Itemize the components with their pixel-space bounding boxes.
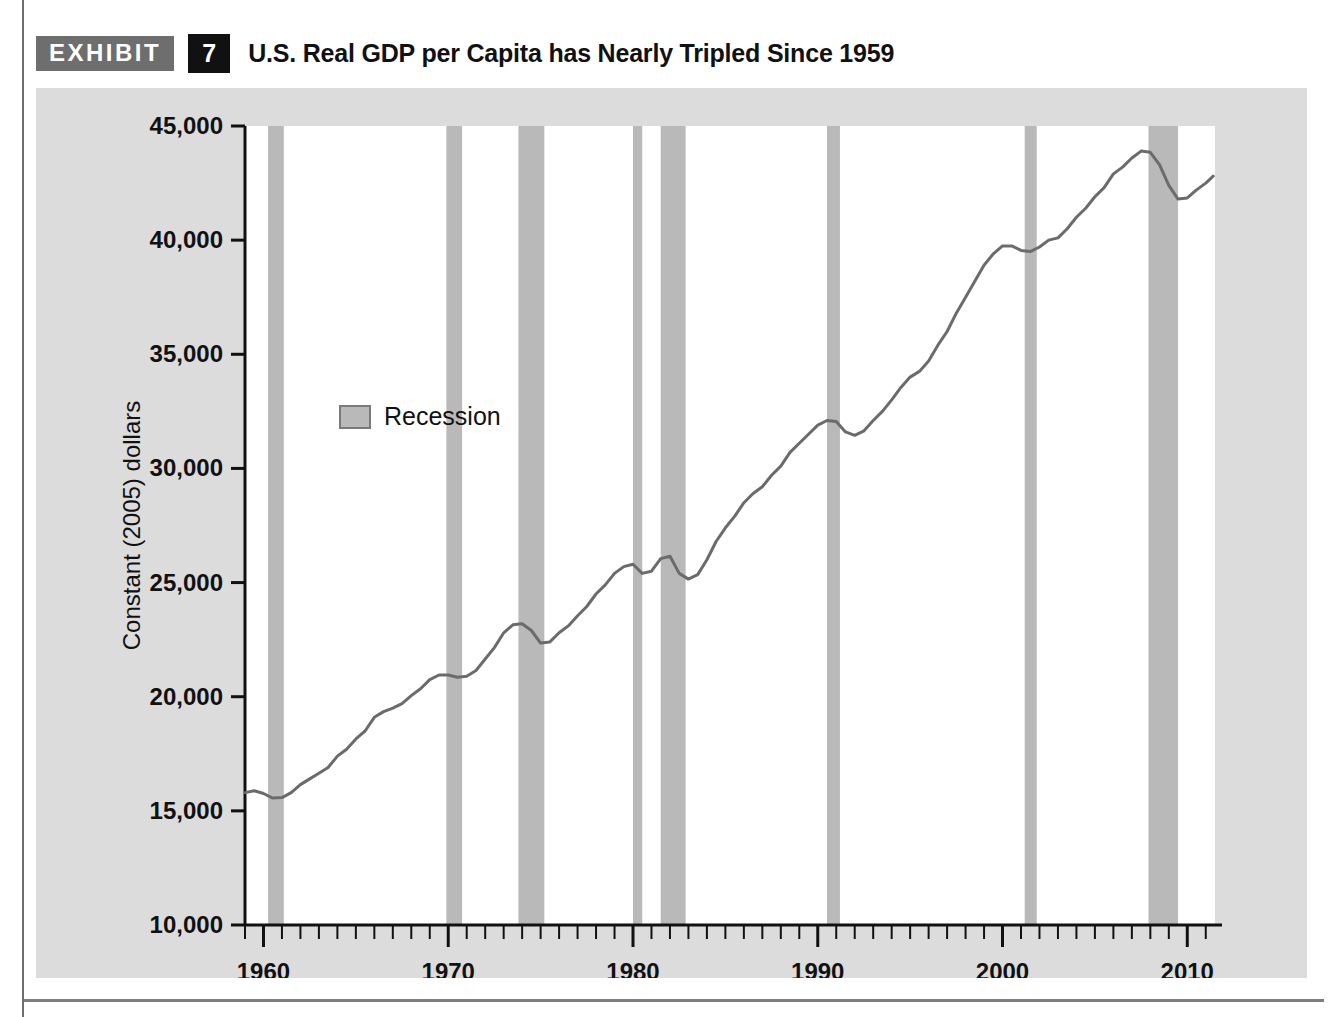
- exhibit-title: U.S. Real GDP per Capita has Nearly Trip…: [248, 39, 894, 68]
- exhibit-header: EXHIBIT 7 U.S. Real GDP per Capita has N…: [36, 32, 894, 74]
- recession-band: [268, 126, 284, 925]
- recession-band: [518, 126, 544, 925]
- legend-swatch-recession: [340, 406, 370, 428]
- y-tick-label: 25,000: [150, 569, 223, 596]
- y-tick-label: 20,000: [150, 683, 223, 710]
- y-tick-label: 45,000: [150, 112, 223, 139]
- x-tick-label: 1970: [422, 958, 475, 978]
- recession-band: [827, 126, 840, 925]
- x-tick-label: 1990: [791, 958, 844, 978]
- y-tick-label: 30,000: [150, 454, 223, 481]
- y-axis-title: Constant (2005) dollars: [118, 401, 145, 650]
- y-tick-label: 10,000: [150, 911, 223, 938]
- x-tick-label: 1980: [606, 958, 659, 978]
- recession-band: [661, 126, 686, 925]
- chart-panel: 10,00015,00020,00025,00030,00035,00040,0…: [36, 88, 1307, 978]
- recession-band: [1148, 126, 1178, 925]
- page-left-rule: [22, 0, 24, 1017]
- legend-label-recession: Recession: [384, 402, 501, 430]
- recession-band: [1025, 126, 1037, 925]
- footer-rule: [24, 999, 1324, 1002]
- y-tick-label: 15,000: [150, 797, 223, 824]
- x-tick-label: 1960: [237, 958, 290, 978]
- recession-band: [633, 126, 642, 925]
- exhibit-number-badge: 7: [188, 34, 230, 73]
- x-tick-label: 2010: [1161, 958, 1214, 978]
- y-tick-label: 35,000: [150, 340, 223, 367]
- gdp-per-capita-line-chart: 10,00015,00020,00025,00030,00035,00040,0…: [36, 88, 1307, 978]
- x-tick-label: 2000: [976, 958, 1029, 978]
- recession-band: [446, 126, 462, 925]
- y-axis-ticks: 10,00015,00020,00025,00030,00035,00040,0…: [150, 112, 245, 938]
- y-tick-label: 40,000: [150, 226, 223, 253]
- x-axis-ticks: 196019701980199020002010: [237, 925, 1214, 978]
- plot-area: 10,00015,00020,00025,00030,00035,00040,0…: [36, 88, 1307, 978]
- plot-background: [245, 126, 1215, 925]
- exhibit-badge: EXHIBIT: [36, 36, 174, 71]
- chart-legend: Recession: [340, 402, 501, 430]
